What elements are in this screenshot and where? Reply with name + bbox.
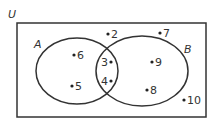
- dot-7: [158, 31, 161, 34]
- set-a-label: A: [33, 38, 42, 51]
- element-3: 3: [101, 56, 108, 69]
- venn-diagram: U A B 2 7 10 6 5 3 4 9 8: [0, 0, 219, 126]
- dot-6: [72, 53, 75, 56]
- dot-8: [145, 88, 148, 91]
- dot-9: [150, 60, 153, 63]
- dot-10: [182, 98, 185, 101]
- element-10: 10: [187, 94, 201, 107]
- element-9: 9: [155, 56, 162, 69]
- dot-3: [109, 60, 112, 63]
- set-b-label: B: [184, 43, 192, 56]
- element-8: 8: [150, 84, 157, 97]
- element-6: 6: [77, 49, 84, 62]
- dot-5: [70, 84, 73, 87]
- universe-label: U: [8, 8, 16, 21]
- set-a-circle: [36, 38, 118, 104]
- element-7: 7: [163, 27, 170, 40]
- element-4: 4: [101, 75, 108, 88]
- element-2: 2: [111, 28, 118, 41]
- set-b-circle: [96, 36, 188, 106]
- dot-4: [109, 79, 112, 82]
- dot-2: [106, 32, 109, 35]
- element-5: 5: [75, 80, 82, 93]
